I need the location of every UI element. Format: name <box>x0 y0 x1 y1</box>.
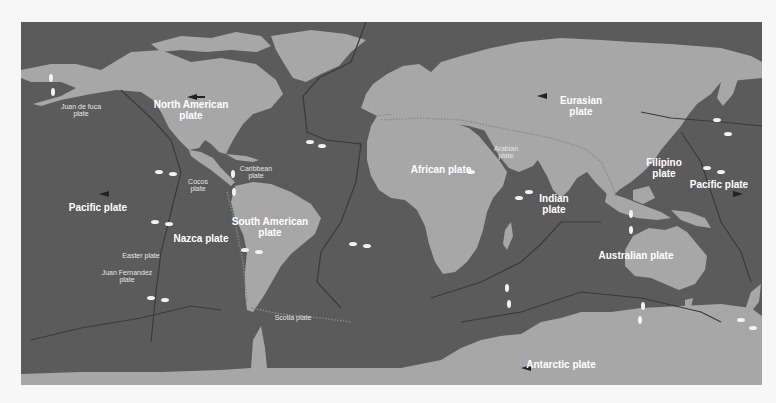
label-line: Nazca plate <box>173 234 228 245</box>
label-line: plate <box>188 185 208 192</box>
label-line: Filipino <box>646 158 682 169</box>
label-antarctic-plate: Antarctic plate <box>526 360 595 371</box>
arrow-light <box>306 140 314 144</box>
arrow-light <box>232 188 236 196</box>
label-line: Australian plate <box>598 251 673 262</box>
label-line: Indian <box>539 194 568 205</box>
caribbean-islands <box>226 154 259 162</box>
label-line: African plate <box>411 165 472 176</box>
label-line: Pacific plate <box>69 203 127 214</box>
antarctica-landmass <box>21 304 762 385</box>
label-indian-plate: Indian plate <box>539 194 568 215</box>
arrow-light <box>161 298 169 302</box>
world-map-graphic <box>21 22 762 385</box>
label-north-american-plate: North American plate <box>154 100 229 121</box>
arrow-light <box>318 144 326 148</box>
label-caribbean-plate: Caribbean plate <box>240 165 272 180</box>
label-line: plate <box>154 110 229 121</box>
arrow-pacific-west <box>99 191 109 197</box>
arrow-light <box>51 88 55 96</box>
borneo-landmass <box>633 186 655 204</box>
label-cocos-plate: Cocos plate <box>188 178 208 193</box>
label-line: plate <box>539 204 568 215</box>
arrow-light <box>629 210 633 218</box>
arrow-light <box>49 74 53 82</box>
label-line: Caribbean <box>240 165 272 172</box>
label-line: plate <box>494 152 518 159</box>
arrow-light <box>147 296 155 300</box>
label-african-plate: African plate <box>411 165 472 176</box>
arrow-light <box>713 118 721 122</box>
label-line: Juan de fuca <box>61 103 101 110</box>
south-america-landmass <box>231 182 321 312</box>
arrow-light <box>169 172 177 176</box>
label-easter-plate: Easter plate <box>122 252 159 259</box>
arrow-light <box>151 220 159 224</box>
arrow-pacific-east <box>733 191 743 197</box>
label-pacific-plate-west: Pacific plate <box>69 203 127 214</box>
label-line: Arabian <box>494 145 518 152</box>
label-juan-fernandez-plate: Juan Fernandez plate <box>102 269 153 284</box>
new-guinea-landmass <box>671 210 711 228</box>
label-line: Cocos <box>188 178 208 185</box>
arrow-light <box>703 166 711 170</box>
arrow-light <box>724 132 732 136</box>
label-line: South American <box>232 217 308 228</box>
label-line: plate <box>61 110 101 117</box>
label-line: plate <box>240 172 272 179</box>
label-australian-plate: Australian plate <box>598 251 673 262</box>
landmasses <box>21 30 762 385</box>
east-pacific-ridge <box>31 306 221 340</box>
arctic-islands <box>151 32 271 52</box>
arrow-light <box>515 196 523 200</box>
label-line: Antarctic plate <box>526 360 595 371</box>
tectonic-plates-map: North American plate Eurasian plate Afri… <box>21 22 762 385</box>
arrow-light <box>525 190 533 194</box>
label-line: plate <box>232 227 308 238</box>
label-nazca-plate: Nazca plate <box>173 234 228 245</box>
label-scotia-plate: Scotia plate <box>275 314 312 321</box>
greenland-landmass <box>271 30 366 82</box>
label-line: Easter plate <box>122 252 159 259</box>
label-line: Pacific plate <box>690 180 748 191</box>
madagascar-landmass <box>503 222 513 250</box>
label-line: Juan Fernandez <box>102 269 153 276</box>
arrow-light <box>231 170 235 178</box>
africa-landmass <box>367 114 507 274</box>
label-pacific-plate-east: Pacific plate <box>690 180 748 191</box>
label-filipino-plate: Filipino plate <box>646 158 682 179</box>
arrow-light <box>641 302 645 310</box>
label-line: plate <box>560 106 602 117</box>
label-line: plate <box>646 168 682 179</box>
arrow-light <box>749 326 757 330</box>
arrow-light <box>255 250 263 254</box>
arrow-light <box>638 316 642 324</box>
arrow-light <box>241 248 249 252</box>
arrow-light <box>737 318 745 322</box>
arrow-light <box>629 226 633 234</box>
arrow-light <box>165 222 173 226</box>
label-line: plate <box>102 276 153 283</box>
label-line: Eurasian <box>560 96 602 107</box>
label-juan-de-fuca-plate: Juan de fuca plate <box>61 103 101 118</box>
arrow-light <box>349 242 357 246</box>
arrow-light <box>505 284 509 292</box>
arrow-light <box>155 170 163 174</box>
arrow-light <box>363 244 371 248</box>
label-line: Scotia plate <box>275 314 312 321</box>
arrow-light <box>717 170 725 174</box>
label-south-american-plate: South American plate <box>232 217 308 238</box>
label-line: North American <box>154 100 229 111</box>
arrow-light <box>507 300 511 308</box>
label-arabian-plate: Arabian plate <box>494 145 518 160</box>
label-eurasian-plate: Eurasian plate <box>560 96 602 117</box>
